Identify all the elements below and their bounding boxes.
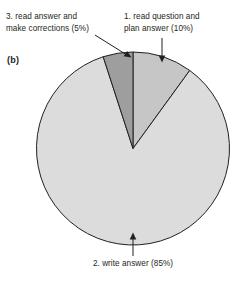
pie-chart-graphic — [0, 0, 239, 284]
leader-line-slice-3 — [95, 35, 129, 56]
pie-wedge-group — [36, 52, 229, 245]
callout-label-slice-2: 2. write answer (85%) — [58, 258, 208, 270]
callout-label-slice-3: 3. read answer and make corrections (5%) — [6, 11, 116, 34]
panel-letter-label: (b) — [7, 55, 19, 65]
pie-chart-figure: 3. read answer and make corrections (5%)… — [0, 0, 239, 284]
callout-label-slice-1: 1. read question and plan answer (10%) — [124, 11, 236, 34]
